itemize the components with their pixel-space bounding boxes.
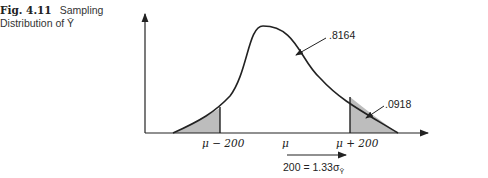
center-area-label: .8164 <box>329 29 355 41</box>
center-area-pointer <box>296 38 326 55</box>
x-label-center: μ <box>282 137 289 149</box>
x-label-left: μ − 200 <box>202 137 244 149</box>
distance-note-subscript: Ȳ <box>339 168 344 175</box>
distribution-diagram <box>0 0 488 178</box>
tail-area-label: .0918 <box>385 98 411 110</box>
distance-note: 200 = 1.33σȲ <box>283 161 344 175</box>
distance-note-text: 200 = 1.33σ <box>283 161 339 173</box>
x-label-right: μ + 200 <box>336 137 378 149</box>
